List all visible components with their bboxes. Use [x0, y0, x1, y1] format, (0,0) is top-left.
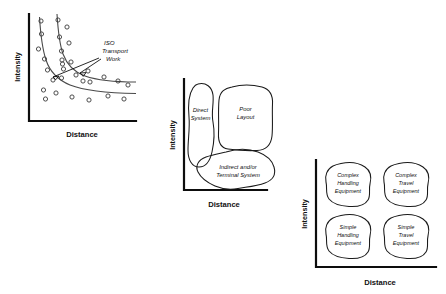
- panel-1-annotation-line3: Work: [106, 55, 121, 62]
- three-panel-intensity-distance-figure: ISO Transport Work Distance Intensity Di…: [0, 0, 446, 294]
- panel-3-blob-simple-handling-line3: Equipment: [335, 240, 362, 246]
- panel-3-blob-complex-handling-line2: Handling: [337, 180, 360, 186]
- panel-3-blob-simple-travel-line1: Simple: [398, 224, 415, 230]
- panel-3-blob-simple-travel-line2: Travel: [399, 232, 415, 238]
- panel-2-blob-poor-layout-line2: Layout: [237, 114, 255, 120]
- panel-1-annotation-line2: Transport: [102, 47, 128, 54]
- panel-2-blob-direct-system-line1: Direct: [193, 107, 209, 113]
- panel-2-x-axis-label: Distance: [208, 200, 240, 209]
- panel-3-blob-simple-handling-line2: Handling: [337, 232, 360, 238]
- panel-3-axes: [316, 160, 436, 267]
- panel-3-blob-complex-travel-line3: Equipment: [393, 188, 420, 194]
- panel-1-iso-transport-work: ISO Transport Work Distance Intensity: [13, 14, 136, 139]
- panel-3-blob-complex-travel-line2: Travel: [399, 180, 415, 186]
- panel-2-blob-indirect-terminal-line1: Indirect and/or: [219, 164, 258, 170]
- panel-2-y-axis-label: Intensity: [168, 120, 177, 150]
- panel-1-annotation-line1: ISO: [104, 39, 115, 46]
- panel-1-axes: [29, 14, 136, 121]
- panel-2-blob-direct-system: [188, 84, 214, 167]
- panel-2-blob-indirect-terminal-line2: Terminal System: [216, 172, 260, 178]
- panel-1-y-axis-label: Intensity: [13, 52, 22, 82]
- panel-3-equipment-quadrants: Complex Handling Equipment Complex Trave…: [300, 160, 436, 287]
- panel-2-blob-poor-layout-line1: Poor: [239, 106, 252, 112]
- panel-3-blob-complex-travel-line1: Complex: [395, 172, 417, 178]
- panel-3-blob-simple-travel-line3: Equipment: [393, 240, 420, 246]
- panel-3-blob-simple-handling-line1: Simple: [340, 224, 357, 230]
- figure-root: ISO Transport Work Distance Intensity Di…: [0, 0, 446, 294]
- panel-3-x-axis-label: Distance: [364, 278, 396, 287]
- panel-3-blob-complex-handling-line3: Equipment: [335, 188, 362, 194]
- panel-3-y-axis-label: Intensity: [300, 199, 309, 229]
- panel-3-blob-complex-handling-line1: Complex: [337, 172, 359, 178]
- panel-1-x-axis-label: Distance: [66, 130, 98, 139]
- panel-2-system-regions: Direct System Poor Layout Indirect and/o…: [168, 79, 275, 209]
- panel-2-blob-direct-system-line2: System: [191, 115, 211, 121]
